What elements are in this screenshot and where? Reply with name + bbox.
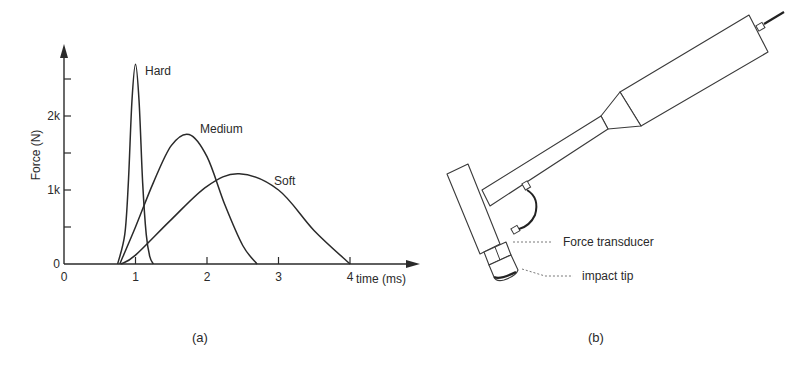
x-tick-label: 2: [204, 270, 211, 284]
figure: 01234 01k2k Force (N) time (ms) Hard Med…: [0, 0, 812, 365]
y-axis-label: Force (N): [29, 130, 43, 181]
curve-soft: [121, 174, 350, 264]
y-tick-label: 0: [53, 257, 60, 271]
hammer-head: [447, 164, 500, 254]
y-tick-label: 2k: [47, 109, 61, 123]
series-label-medium: Medium: [200, 122, 243, 136]
force-time-chart: 01234 01k2k Force (N) time (ms) Hard Med…: [29, 44, 420, 286]
x-tick-label: 1: [132, 270, 139, 284]
x-tick-label: 3: [275, 270, 282, 284]
y-ticks: 01k2k: [47, 79, 71, 271]
series-label-soft: Soft: [274, 174, 296, 188]
x-tick-label: 0: [61, 270, 68, 284]
y-axis-arrow-icon: [60, 44, 68, 58]
transducer-connector: [511, 225, 520, 234]
sensor-cable: [519, 190, 536, 229]
curve-hard: [118, 64, 154, 264]
leader-impact-tip: [522, 269, 573, 276]
x-tick-label: 4: [347, 270, 354, 284]
curve-medium: [120, 134, 257, 264]
y-tick-label: 1k: [47, 183, 61, 197]
label-force-transducer: Force transducer: [563, 235, 654, 249]
label-impact-tip: impact tip: [582, 269, 634, 283]
series-label-hard: Hard: [145, 64, 171, 78]
panel-a-caption: (a): [192, 330, 208, 345]
x-ticks: 01234: [61, 257, 354, 284]
output-connector: [756, 22, 765, 31]
x-axis-label: time (ms): [356, 272, 406, 286]
hammer-body: [620, 15, 768, 126]
output-cable: [764, 12, 784, 24]
panel-b-caption: (b): [588, 330, 604, 345]
series-curves: [118, 64, 350, 264]
hammer-shaft: [482, 116, 608, 206]
x-axis-arrow-icon: [406, 260, 420, 268]
